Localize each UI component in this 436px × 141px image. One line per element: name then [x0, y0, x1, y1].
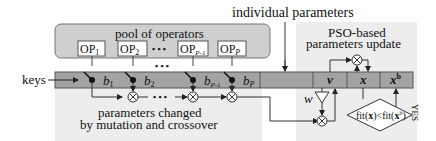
- gain-w-label: w: [304, 91, 313, 106]
- yes-label: YES: [410, 104, 420, 121]
- individual-parameters-label: individual parameters: [232, 5, 354, 20]
- operator-lines-ellipsis: • • •: [155, 61, 169, 71]
- operator-ellipsis: • • •: [152, 44, 166, 54]
- evolutionary-pso-diagram: individual parameters pool of operators …: [0, 0, 436, 141]
- fitness-condition: fit(x)<fit(xb): [356, 110, 406, 122]
- pso-title-line2: parameters update: [306, 36, 401, 51]
- summing-junction-2: [128, 92, 138, 102]
- keys-label: keys: [22, 72, 46, 87]
- pso-summing-junction-bottom: [317, 116, 327, 126]
- operator-op-p: OPP: [218, 41, 246, 57]
- operator-op-2: OP2: [118, 41, 147, 57]
- mutation-caption-line2: by mutation and crossover: [80, 117, 218, 132]
- cell-v: v: [327, 72, 333, 87]
- pso-summing-junction-top: [352, 55, 362, 65]
- mutation-ellipsis: • • •: [153, 92, 167, 102]
- operator-pool-title: pool of operators: [115, 26, 204, 41]
- summing-junction-p: [227, 92, 237, 102]
- operator-op-p-minus-1: OPP-1: [178, 41, 208, 57]
- operator-op-1: OP1: [78, 41, 105, 57]
- cell-x: x: [359, 72, 367, 87]
- summing-junction-p-minus-1: [188, 92, 198, 102]
